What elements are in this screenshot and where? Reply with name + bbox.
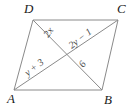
geometry-figure: 2x2y − 1y + 36 ABCD [0,0,135,108]
vertex-label-c: C [117,1,126,16]
vertex-label-d: D [23,1,34,16]
parallelogram-diagram: 2x2y − 1y + 36 ABCD [0,0,135,108]
vertex-label-a: A [6,91,15,106]
vertex-label-b: B [104,92,112,107]
